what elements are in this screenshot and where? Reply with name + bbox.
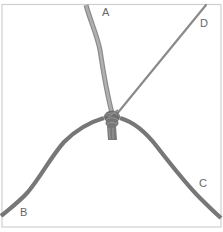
label-d: D [200, 18, 208, 29]
label-c: C [199, 178, 207, 189]
cord-c [120, 118, 221, 218]
label-b: B [20, 207, 27, 218]
knot [104, 110, 120, 140]
cord-b [1, 118, 104, 216]
label-a: A [102, 7, 109, 18]
knot-diagram [0, 0, 223, 232]
cord-d [116, 5, 206, 115]
